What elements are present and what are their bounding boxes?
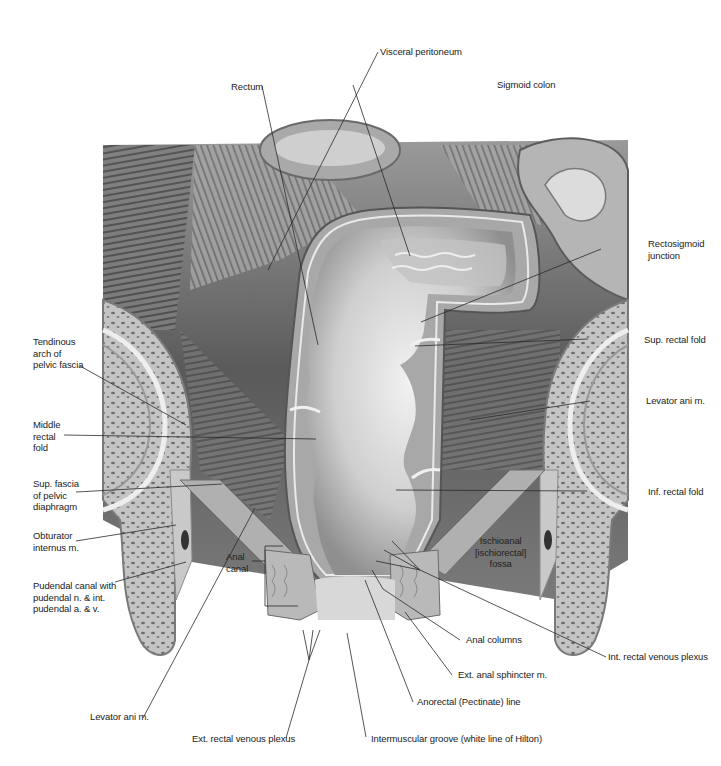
label-sigmoid-colon: Sigmoid colon <box>497 79 555 91</box>
label-rectum: Rectum <box>231 81 263 93</box>
label-levator-ani-right: Levator ani m. <box>646 395 705 407</box>
label-sup-rectal-fold: Sup. rectal fold <box>644 334 706 346</box>
label-ext-anal-sphincter: Ext. anal sphincter m. <box>458 669 547 681</box>
label-anorectal-line: Anorectal (Pectinate) line <box>417 696 521 708</box>
label-inf-rectal-fold: Inf. rectal fold <box>648 486 703 498</box>
label-visceral-peritoneum: Visceral peritoneum <box>380 46 462 58</box>
label-ischioanal-fossa: Ischioanal [ischiorectal] fossa <box>475 535 526 570</box>
label-ext-rectal-venous-plexus: Ext. rectal venous plexus <box>192 733 295 745</box>
anatomy-figure: Visceral peritoneum Rectum Sigmoid colon… <box>0 0 721 766</box>
label-sup-fascia: Sup. fascia of pelvic diaphragm <box>33 478 79 513</box>
label-middle-rectal-fold: Middle rectal fold <box>33 419 60 454</box>
label-anal-canal: Anal canal <box>226 551 248 574</box>
label-pudendal-canal: Pudendal canal with pudendal n. & int. p… <box>33 580 116 615</box>
label-anal-columns: Anal columns <box>466 634 522 646</box>
label-tendinous-arch: Tendinous arch of pelvic fascia <box>33 336 83 371</box>
label-levator-ani-left: Levator ani m. <box>90 711 149 723</box>
label-obturator-internus: Obturator internus m. <box>33 530 79 553</box>
label-intermuscular-groove: Intermuscular groove (white line of Hilt… <box>371 733 542 745</box>
label-rectosigmoid-junction: Rectosigmoid junction <box>648 238 704 261</box>
label-int-rectal-venous-plexus: Int. rectal venous plexus <box>608 651 708 663</box>
